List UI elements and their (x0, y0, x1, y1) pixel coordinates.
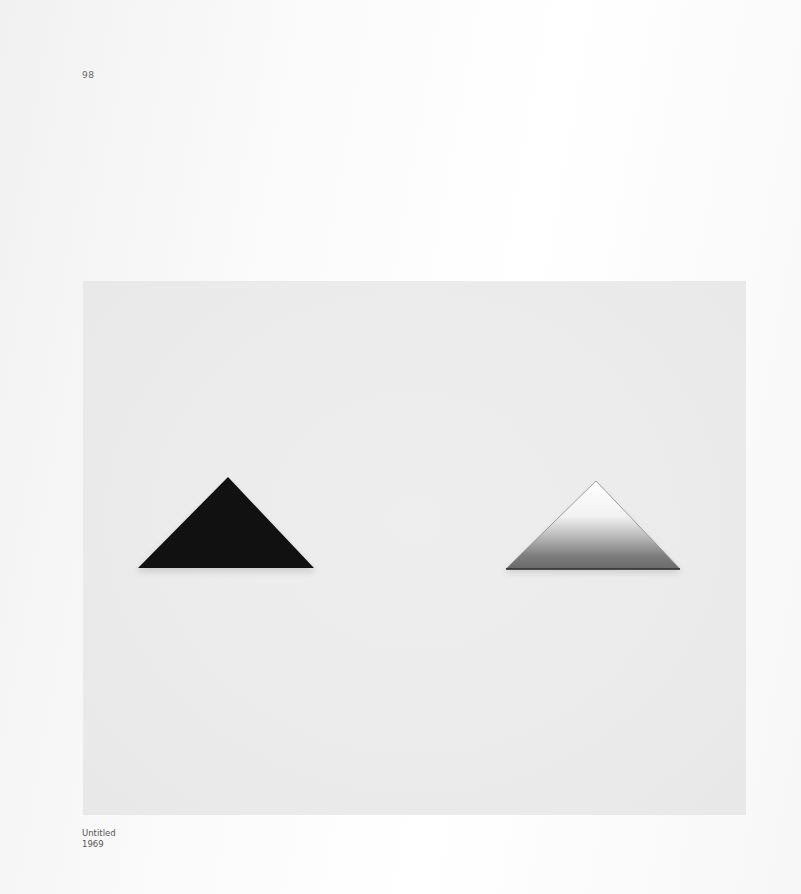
dark-triangle (138, 477, 314, 568)
page-number: 98 (82, 70, 94, 80)
artwork-year: 1969 (82, 839, 116, 850)
mirror-triangle (506, 481, 680, 569)
artwork-photograph (83, 281, 746, 815)
artwork-title: Untitled (82, 828, 116, 839)
artwork-caption: Untitled 1969 (82, 828, 116, 850)
artwork-image (83, 281, 746, 815)
